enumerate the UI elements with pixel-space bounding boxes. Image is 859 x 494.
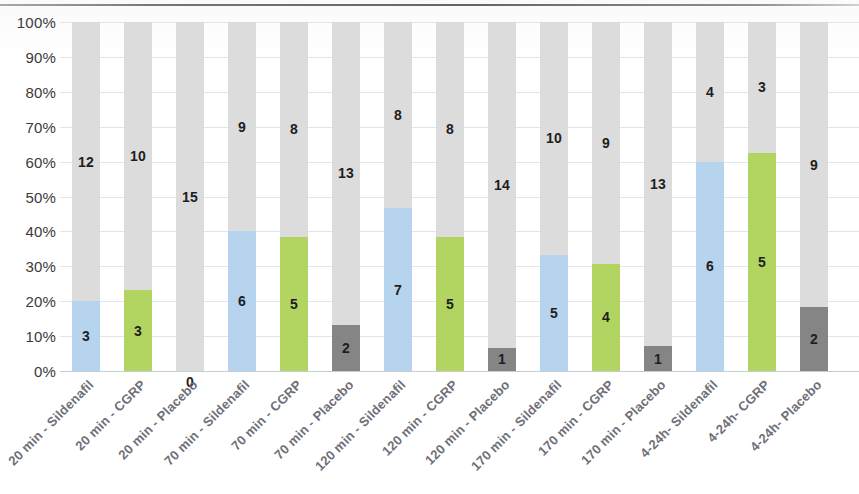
bar-segment-value-label: 1 [644, 351, 672, 367]
bar-group[interactable]: 132 [332, 22, 360, 371]
y-axis-tick-label: 0% [4, 363, 56, 380]
y-axis-tick-label: 30% [4, 258, 56, 275]
stacked-bar-chart: 100%90%80%70%60%50%40%30%20%10%0% 123103… [0, 0, 859, 494]
y-axis-tick-label: 20% [4, 293, 56, 310]
x-axis-tick-label: 170 min - Sildenafil [468, 377, 565, 474]
bar-segment-remainder-label: 10 [540, 130, 568, 146]
bar-segment-value-label: 2 [800, 331, 828, 347]
bar-segment-remainder-label: 9 [800, 157, 828, 173]
bar-group[interactable]: 92 [800, 22, 828, 371]
bar-segment-remainder-label: 3 [748, 79, 776, 95]
y-axis-tick-label: 50% [4, 188, 56, 205]
x-axis: 20 min - Sildenafil20 min - CGRP20 min -… [60, 371, 859, 494]
bar-segment-value-label: 6 [696, 258, 724, 274]
bar-group[interactable]: 131 [644, 22, 672, 371]
y-axis-tick-label: 10% [4, 328, 56, 345]
bar-segment-value-label: 6 [228, 293, 256, 309]
bar-group[interactable]: 103 [124, 22, 152, 371]
bar-group[interactable]: 85 [436, 22, 464, 371]
x-axis-tick-label: 120 min - Sildenafil [312, 377, 409, 474]
bar-segment-value-label: 5 [280, 296, 308, 312]
bar-segment-remainder-label: 10 [124, 148, 152, 164]
bar-segment-remainder-label: 13 [644, 176, 672, 192]
bar-segment-remainder-label: 9 [592, 135, 620, 151]
y-axis-tick-label: 70% [4, 118, 56, 135]
bar-segment-remainder-label: 8 [384, 107, 412, 123]
bar-group[interactable]: 85 [280, 22, 308, 371]
bar-segment-value-label: 4 [592, 309, 620, 325]
bar-segment-value-label: 2 [332, 340, 360, 356]
bar-segment-value-label: 5 [540, 305, 568, 321]
y-axis-tick-label: 90% [4, 48, 56, 65]
plot-area: 1231031509685132878514110594131463592 [60, 22, 859, 371]
bar-segment-value-label: 3 [124, 323, 152, 339]
bar-group[interactable]: 35 [748, 22, 776, 371]
bar-group[interactable]: 141 [488, 22, 516, 371]
bar-segment-remainder-label: 15 [176, 189, 204, 205]
y-axis-tick-label: 40% [4, 223, 56, 240]
bar-group[interactable]: 94 [592, 22, 620, 371]
bar-segment-remainder-label: 9 [228, 119, 256, 135]
y-axis-tick-label: 100% [4, 14, 56, 31]
bar-group[interactable]: 123 [72, 22, 100, 371]
bar-group[interactable]: 46 [696, 22, 724, 371]
bar-segment-remainder-label: 8 [280, 121, 308, 137]
y-axis-tick-label: 60% [4, 153, 56, 170]
bar-segment-value-label: 3 [72, 328, 100, 344]
bar-segment-value-label: 1 [488, 351, 516, 367]
bar-segment-remainder-label: 4 [696, 84, 724, 100]
bar-group[interactable]: 96 [228, 22, 256, 371]
bar-group[interactable]: 150 [176, 22, 204, 371]
bar-segment-value-label: 5 [436, 296, 464, 312]
bar-segment-remainder-label: 12 [72, 154, 100, 170]
y-axis-tick-label: 80% [4, 83, 56, 100]
bar-segment-value-label: 5 [748, 254, 776, 270]
bar-segment-remainder-label: 8 [436, 121, 464, 137]
bar-segment-remainder-label: 14 [488, 177, 516, 193]
bar-segment-remainder-label: 13 [332, 165, 360, 181]
bar-segment-value-label: 7 [384, 282, 412, 298]
bar-group[interactable]: 87 [384, 22, 412, 371]
bar-group[interactable]: 105 [540, 22, 568, 371]
